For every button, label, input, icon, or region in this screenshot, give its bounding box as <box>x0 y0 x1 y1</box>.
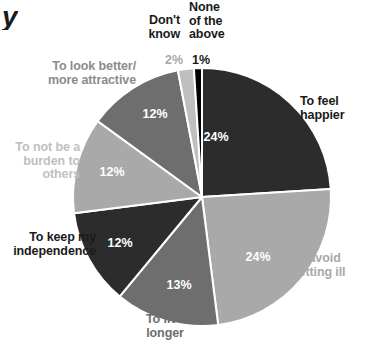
slice-value-keep-independence: 12% <box>107 236 132 250</box>
slice-value-avoid-getting-ill: 24% <box>245 250 270 264</box>
callout-label-feel-happier: To feel happier <box>300 95 344 122</box>
slice-value-live-longer: 13% <box>166 278 191 292</box>
callout-label-live-longer: To live longer <box>126 313 204 340</box>
slice-value-dont-know: 2% <box>165 53 183 67</box>
pie-chart: y 24% 24% 13% 12% 12% 12% 2% 1% To feel … <box>0 0 366 348</box>
slice-value-look-better: 12% <box>142 107 167 121</box>
slice-value-none-of-above: 1% <box>192 53 210 67</box>
slice-value-feel-happier: 24% <box>203 130 228 144</box>
callout-label-avoid-getting-ill: To avoid getting ill <box>291 252 345 279</box>
callout-label-dont-know: Don't know <box>124 14 180 41</box>
pie-slice-group <box>73 68 331 326</box>
callout-label-look-better: To look better/ more attractive <box>8 60 136 87</box>
slice-value-not-be-burden: 12% <box>99 165 124 179</box>
callout-label-keep-independence: To keep my independence <box>2 231 96 258</box>
callout-label-none-of-above: None of the above <box>189 1 251 42</box>
callout-label-not-be-burden: To not be a burden to others <box>2 141 80 182</box>
